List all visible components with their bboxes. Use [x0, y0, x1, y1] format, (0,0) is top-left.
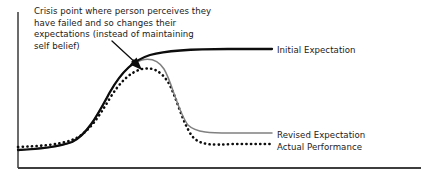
- series-label-revised-expectation: Revised Expectation: [277, 130, 365, 141]
- series-line-revised-expectation: [18, 59, 272, 150]
- series-label-actual-performance: Actual Performance: [277, 142, 362, 153]
- series-line-actual-performance: [18, 68, 272, 147]
- series-label-initial-expectation: Initial Expectation: [277, 45, 356, 56]
- expectation-performance-chart: Crisis point where person perceives they…: [0, 0, 426, 179]
- crisis-point-annotation: Crisis point where person perceives they…: [34, 6, 224, 52]
- series-line-initial-expectation: [18, 49, 272, 150]
